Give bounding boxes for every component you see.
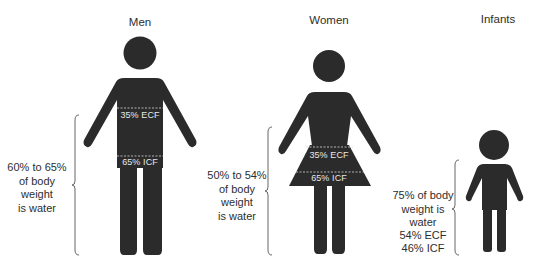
women-ecf-label: 35% ECF — [305, 150, 353, 160]
infants-icf-label: 46% ICF — [384, 242, 462, 256]
infants-ecf-label: 54% ECF — [384, 229, 462, 243]
men-ecf-label: 35% ECF — [117, 110, 163, 120]
women-body-water-label: 50% to 54% of body weight is water — [202, 169, 272, 223]
infant-figure — [466, 130, 524, 252]
men-icf-label: 65% ICF — [117, 157, 163, 167]
women-title: Women — [299, 14, 359, 26]
men-figure — [83, 37, 196, 256]
women-icf-label: 65% ICF — [305, 173, 353, 183]
infants-body-water-label: 75% of body weight is water — [384, 189, 462, 230]
infants-title: Infants — [468, 13, 528, 25]
men-body-water-label: 60% to 65% of body weight is water — [2, 161, 72, 215]
men-title: Men — [110, 16, 170, 28]
